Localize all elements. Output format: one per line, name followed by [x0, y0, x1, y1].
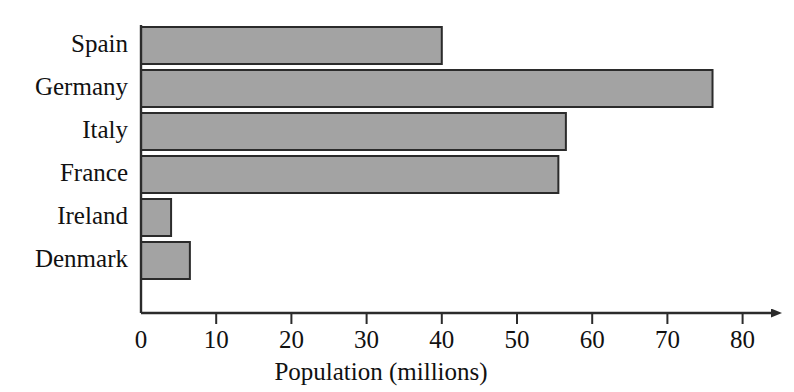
x-tick-label-0: 0 — [135, 326, 148, 353]
x-tick-label-70: 70 — [655, 326, 680, 353]
category-label-ireland: Ireland — [57, 202, 128, 229]
chart-canvas: 01020304050607080 SpainGermanyItalyFranc… — [0, 0, 794, 392]
y-axis-category-labels: SpainGermanyItalyFranceIrelandDenmark — [35, 30, 129, 272]
x-tick-label-10: 10 — [204, 326, 229, 353]
bar-germany — [141, 70, 713, 107]
bar-france — [141, 156, 558, 193]
x-tick-label-20: 20 — [279, 326, 304, 353]
bars-group — [141, 27, 713, 279]
bar-chart: 01020304050607080 SpainGermanyItalyFranc… — [0, 0, 794, 392]
x-axis-title: Population (millions) — [274, 358, 487, 386]
category-label-france: France — [60, 159, 128, 186]
bar-denmark — [141, 242, 190, 279]
x-tick-label-60: 60 — [580, 326, 605, 353]
x-tick-label-40: 40 — [429, 326, 454, 353]
bar-ireland — [141, 199, 171, 236]
x-tick-label-30: 30 — [354, 326, 379, 353]
x-tick-label-80: 80 — [730, 326, 755, 353]
bar-italy — [141, 113, 566, 150]
category-label-spain: Spain — [71, 30, 128, 57]
x-axis-ticks: 01020304050607080 — [135, 313, 755, 353]
x-tick-label-50: 50 — [505, 326, 530, 353]
bar-spain — [141, 27, 442, 64]
category-label-germany: Germany — [35, 73, 129, 100]
category-label-denmark: Denmark — [35, 245, 129, 272]
category-label-italy: Italy — [82, 116, 128, 143]
